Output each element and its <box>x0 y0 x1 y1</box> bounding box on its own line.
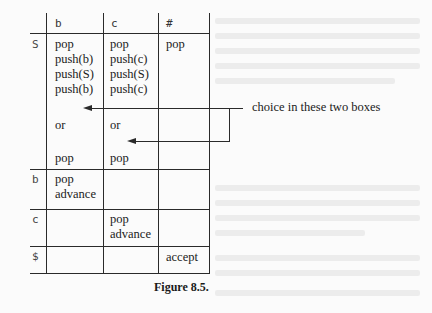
header-rule <box>30 33 210 34</box>
cell-S-c: pop push(c) push(S) push(c) <box>110 37 149 97</box>
row-rule-4 <box>30 273 210 274</box>
action-advance: advance <box>55 187 96 202</box>
action-pop: pop <box>55 172 96 187</box>
row-header-c: c <box>32 213 39 226</box>
cell-S-b: pop push(b) push(S) push(b) <box>55 37 94 97</box>
row-rule-1 <box>30 169 210 170</box>
grid-line-v3 <box>158 13 159 273</box>
figure-caption: Figure 8.5. <box>154 280 209 295</box>
action-pop: pop <box>110 212 151 227</box>
row-header-dollar: $ <box>32 250 39 263</box>
cell-c-c: pop advance <box>110 212 151 242</box>
arrow-line-lower <box>134 141 230 142</box>
annotation-label: choice in these two boxes <box>252 100 380 115</box>
column-header-c: c <box>111 17 118 30</box>
grid-line-v4 <box>209 13 210 273</box>
cell-S-b-alt: pop <box>55 151 74 166</box>
action-push-S: push(S) <box>55 67 94 82</box>
arrow-line-upper <box>90 108 243 109</box>
action-pop: pop <box>110 37 149 52</box>
cell-b-b: pop advance <box>55 172 96 202</box>
action-push-S: push(S) <box>110 67 149 82</box>
row-rule-3 <box>30 246 210 247</box>
row-header-S: S <box>32 38 39 51</box>
action-pop: pop <box>55 37 94 52</box>
action-push-b-2: push(b) <box>55 82 94 97</box>
action-push-c-2: push(c) <box>110 82 149 97</box>
grid-line-v1 <box>46 13 47 273</box>
arrow-bracket-connector <box>229 108 230 142</box>
row-header-b: b <box>32 173 39 186</box>
column-header-b: b <box>55 17 62 30</box>
arrowhead-left-icon <box>127 138 136 144</box>
row-rule-2 <box>30 209 210 210</box>
cell-S-hash: pop <box>166 37 185 52</box>
action-advance: advance <box>110 227 151 242</box>
grid-line-v2 <box>103 13 104 273</box>
cell-dollar-hash: accept <box>166 250 198 265</box>
cell-S-b-or: or <box>55 118 65 133</box>
action-push-b: push(b) <box>55 52 94 67</box>
action-push-c: push(c) <box>110 52 149 67</box>
cell-S-c-or: or <box>110 118 120 133</box>
arrowhead-left-icon <box>83 105 92 111</box>
column-header-hash: # <box>166 17 173 30</box>
cell-S-c-alt: pop <box>110 151 129 166</box>
